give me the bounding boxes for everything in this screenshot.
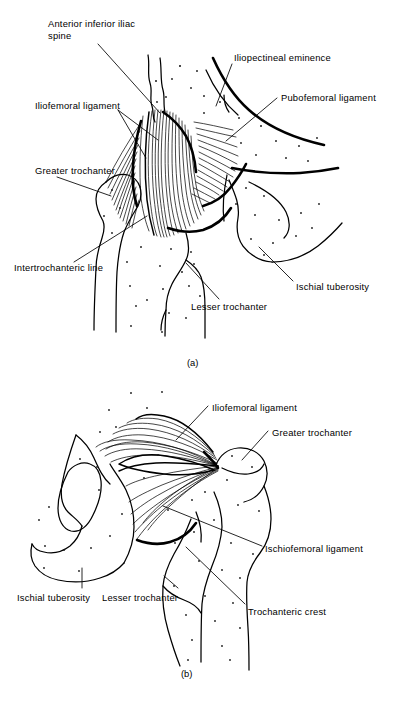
label-iliopectineal-eminence: Iliopectineal eminence: [234, 52, 331, 64]
label-iliofemoral-ligament-a: Iliofemoral ligament: [35, 100, 120, 112]
femur-lateral-contour-b: [247, 486, 271, 670]
caption-panel-a: (a): [187, 357, 198, 368]
panel-a-artwork: [57, 44, 342, 338]
ischial-tuberosity-outline-b: [31, 544, 124, 582]
stipple-dots-panel-b: [38, 391, 260, 661]
figure-page: Anterior inferior iliac spine Iliopectin…: [0, 0, 396, 709]
greater-trochanter-outline-b: [216, 448, 267, 502]
superior-pubic-ramus-edge: [232, 168, 338, 173]
label-pubofemoral-ligament: Pubofemoral ligament: [281, 92, 376, 104]
label-greater-trochanter-a: Greater trochanter: [35, 165, 115, 177]
obturator-foramen-edge: [249, 182, 289, 238]
leader-lesser-trochanter: [186, 263, 219, 299]
caption-panel-b: (b): [181, 668, 192, 679]
femoral-neck-medial-outline: [165, 233, 189, 336]
label-lesser-trochanter-a: Lesser trochanter: [191, 301, 267, 313]
ischiofemoral-ligament-fibers-b: [96, 415, 218, 539]
label-lesser-trochanter-b: Lesser trochanter: [102, 592, 178, 604]
iliac-spine-outline-right: [160, 58, 165, 112]
label-ischial-tuberosity-a: Ischial tuberosity: [296, 281, 369, 293]
panel-b-artwork: [31, 391, 271, 670]
trochanteric-crest-contour-b: [201, 492, 222, 662]
label-ischial-tuberosity-b: Ischial tuberosity: [17, 592, 90, 604]
femoral-neck-inferior-b: [196, 512, 201, 542]
ischium-outline: [229, 180, 272, 262]
ligament-fan-inferior-border-b: [137, 523, 196, 544]
pubofemoral-ligament-fibers-a: [192, 122, 238, 203]
leader-ischial-tuberosity: [259, 247, 293, 281]
greater-trochanter-outline: [94, 182, 106, 330]
ischium-lower-outline-b: [32, 526, 82, 553]
leader-pubofemoral-ligament: [226, 98, 277, 141]
label-iliofemoral-ligament-b: Iliofemoral ligament: [212, 402, 297, 414]
leader-lesser-trochanter-b: [164, 576, 178, 588]
label-ischiofemoral-ligament: Ischiofemoral ligament: [265, 543, 363, 555]
leader-intertrochanteric-line: [74, 216, 147, 262]
iliofemoral-ligament-fibers-a: [140, 110, 204, 237]
label-greater-trochanter-b: Greater trochanter: [272, 427, 352, 439]
label-trochanteric-crest: Trochanteric crest: [248, 606, 326, 618]
leader-greater-trochanter-b: [242, 431, 268, 460]
label-intertrochanteric-line: Intertrochanteric line: [14, 262, 103, 274]
label-anterior-inferior-iliac-spine: Anterior inferior iliac spine: [48, 18, 135, 41]
lesser-trochanter-outline: [186, 260, 205, 338]
ischial-tuberosity-outline: [272, 223, 342, 262]
leader-greater-trochanter: [57, 177, 111, 196]
trochanteric-fossa-b: [222, 464, 264, 474]
